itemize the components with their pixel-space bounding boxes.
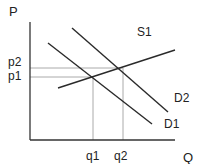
diagram-svg: [0, 0, 198, 164]
demand-label-d1: D1: [164, 118, 179, 130]
quantity-tick-q1: q1: [86, 150, 99, 162]
supply-label-s1: S1: [137, 26, 152, 38]
x-axis-label: Q: [183, 151, 193, 164]
price-tick-p2: p2: [8, 56, 21, 68]
demand-label-d2: D2: [174, 92, 189, 104]
price-tick-p1: p1: [8, 70, 21, 82]
supply-curve-s1: [58, 50, 175, 88]
supply-demand-diagram: P Q p2 p1 q1 q2 S1 D1 D2: [0, 0, 198, 164]
y-axis-label: P: [9, 5, 18, 18]
quantity-tick-q2: q2: [114, 150, 127, 162]
